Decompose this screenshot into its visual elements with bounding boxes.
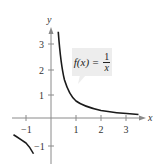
x-tick-label: 2 (99, 124, 104, 135)
fraction-numerator: 1 (103, 52, 110, 63)
function-lhs: f(x) = (74, 56, 99, 68)
y-axis-arrow-icon (49, 27, 54, 34)
function-label-callout: f(x) = 1 x (72, 48, 112, 76)
x-axis-label: x (147, 112, 153, 123)
x-tick-label: −1 (21, 124, 32, 135)
function-fraction: 1 x (103, 52, 110, 73)
y-tick-label: −1 (34, 141, 45, 152)
x-tick-label: 3 (124, 124, 129, 135)
x-tick-label: 1 (74, 124, 79, 135)
curve-negative-branch (14, 135, 34, 154)
x-axis-arrow-icon (139, 116, 146, 121)
y-tick-label: 1 (39, 90, 44, 101)
function-plot: −1 1 2 3 3 2 1 −1 x y (0, 0, 158, 168)
y-tick-label: 3 (39, 39, 44, 50)
callout-pointer (78, 75, 86, 84)
y-axis-label: y (46, 14, 52, 25)
y-tick-label: 2 (39, 65, 44, 76)
fraction-denominator: x (104, 63, 108, 73)
